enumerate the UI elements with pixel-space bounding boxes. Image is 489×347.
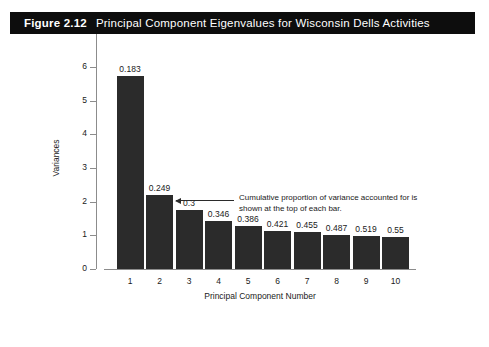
y-axis-tick-label: 2: [82, 196, 87, 207]
x-axis-tick-label: 10: [391, 276, 400, 286]
figure-title: Principal Component Eigenvalues for Wisc…: [96, 17, 430, 29]
y-axis-tick: 6: [90, 67, 96, 68]
x-axis-tick-label: 9: [364, 276, 369, 286]
y-axis-tick: 2: [90, 202, 96, 203]
bar-value-label: 0.519: [355, 224, 376, 234]
annotation-arrow: [176, 200, 234, 201]
x-axis-tick-label: 8: [334, 276, 339, 286]
scree-plot: 0123456 12345678910 Variances Principal …: [0, 34, 489, 347]
bar-value-label: 0.346: [208, 209, 229, 219]
x-axis-tick-label: 1: [128, 276, 133, 286]
bar-value-label: 0.55: [387, 225, 404, 235]
x-axis-tick-label: 6: [275, 276, 280, 286]
bar: [294, 232, 321, 269]
y-axis-tick: 3: [90, 168, 96, 169]
bar-value-label: 0.386: [237, 214, 258, 224]
figure-caption-bar: Figure 2.12 Principal Component Eigenval…: [10, 12, 475, 34]
x-axis-tick-label: 5: [246, 276, 251, 286]
bar: [235, 226, 262, 269]
x-axis-tick-label: 7: [305, 276, 310, 286]
bar: [264, 231, 291, 269]
y-axis-tick-label: 3: [82, 162, 87, 173]
y-axis-tick-label: 4: [82, 128, 87, 139]
bar: [117, 76, 144, 269]
y-axis-tick: 5: [90, 101, 96, 102]
x-axis-title: Principal Component Number: [204, 291, 316, 301]
y-axis-title: Variances: [51, 139, 61, 176]
bar: [205, 221, 232, 269]
bar: [382, 237, 409, 269]
bar: [176, 210, 203, 269]
x-axis-line: [104, 269, 416, 270]
bar-value-label: 0.455: [296, 220, 317, 230]
x-axis-tick-label: 2: [157, 276, 162, 286]
annotation-text: Cumulative proportion of variance accoun…: [239, 193, 429, 214]
y-axis-line: [96, 34, 97, 269]
x-axis-tick-label: 4: [216, 276, 221, 286]
bar-value-label: 0.487: [326, 223, 347, 233]
y-axis-tick: 4: [90, 134, 96, 135]
bar-value-label: 0.421: [267, 219, 288, 229]
y-axis-tick-label: 6: [82, 61, 87, 72]
y-axis-tick: 0: [90, 269, 96, 270]
bar-value-label: 0.249: [149, 183, 170, 193]
y-axis-tick-label: 5: [82, 95, 87, 106]
bar: [323, 235, 350, 269]
y-axis-tick: 1: [90, 235, 96, 236]
y-axis-tick-label: 0: [82, 263, 87, 274]
x-axis-tick-label: 3: [187, 276, 192, 286]
bar: [146, 195, 173, 269]
figure-number: Figure 2.12: [24, 17, 87, 29]
bar: [353, 236, 380, 269]
bar-value-label: 0.183: [119, 64, 140, 74]
y-axis-tick-label: 1: [82, 229, 87, 240]
